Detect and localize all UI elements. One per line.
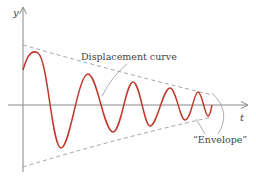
envelope-leader-line-upper — [212, 93, 224, 134]
displacement-leader-line — [102, 64, 127, 96]
envelope-leader-line-lower — [196, 119, 205, 134]
y-axis-label: y — [12, 7, 19, 18]
displacement-curve-label: Displacement curve — [81, 51, 177, 62]
x-axis-label: t — [240, 112, 245, 123]
damped-oscillation-diagram: y t Displacement curve “Envelope” — [0, 0, 256, 185]
envelope-label: “Envelope” — [193, 134, 247, 145]
displacement-curve — [23, 52, 212, 148]
